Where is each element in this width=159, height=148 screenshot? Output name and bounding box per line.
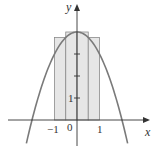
x-tick-label-neg1: −1	[47, 123, 59, 135]
x-axis-label: x	[144, 125, 151, 139]
x-axis-arrow-icon	[143, 117, 150, 123]
riemann-sum-figure: x y −1 0 1 1	[0, 0, 159, 148]
x-tick-label-0: 0	[67, 121, 73, 133]
x-tick-label-1: 1	[97, 123, 103, 135]
y-axis-label: y	[65, 0, 72, 14]
y-axis-arrow-icon	[74, 4, 80, 11]
y-tick-label-1: 1	[68, 92, 74, 104]
